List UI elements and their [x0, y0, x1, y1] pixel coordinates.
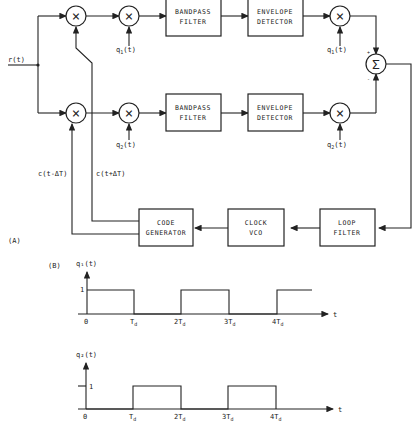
waveform-q2: q₂(t) 1 t 0 Td 2Td 3Td 4Td — [76, 351, 342, 422]
svg-text:GENERATOR: GENERATOR — [146, 229, 187, 237]
c-late-label: c(t+ΔT) — [96, 170, 126, 178]
svg-text:0: 0 — [83, 413, 87, 421]
svg-text:×: × — [72, 8, 80, 24]
multiplier-bottom-3: × — [330, 103, 350, 123]
svg-text:2Td: 2Td — [174, 413, 185, 422]
clock-vco: CLOCK VCO — [228, 209, 284, 246]
svg-text:×: × — [72, 105, 80, 121]
summer: Σ — [366, 54, 386, 74]
input-signal-label: r(t) — [8, 56, 25, 64]
q1-label-top-left: q1(t) — [116, 46, 136, 55]
part-b-label: (B) — [48, 262, 61, 270]
c-early-label: c(t-ΔT) — [38, 170, 68, 178]
multiplier-bottom-1: × — [66, 103, 86, 123]
svg-text:q₁(t): q₁(t) — [76, 260, 97, 268]
svg-text:CLOCK: CLOCK — [245, 219, 268, 227]
svg-text:×: × — [125, 105, 133, 121]
loop-filter: LOOP FILTER — [320, 209, 375, 246]
bandpass-filter-bottom: BANDPASS FILTER — [166, 94, 221, 131]
svg-text:Td: Td — [129, 413, 136, 422]
svg-text:4Td: 4Td — [272, 318, 283, 327]
svg-text:Td: Td — [130, 318, 137, 327]
bandpass-filter-top: BANDPASS FILTER — [166, 0, 221, 36]
svg-text:DETECTOR: DETECTOR — [257, 114, 293, 122]
q1-label-top-right: q1(t) — [327, 46, 347, 55]
svg-text:4Td: 4Td — [270, 413, 281, 422]
svg-text:t: t — [338, 406, 342, 414]
svg-text:×: × — [125, 8, 133, 24]
svg-text:t: t — [333, 311, 337, 319]
multiplier-top-2: × — [119, 6, 139, 26]
minus-sign: - — [367, 76, 370, 82]
svg-text:BANDPASS: BANDPASS — [175, 104, 211, 112]
svg-text:BANDPASS: BANDPASS — [175, 8, 211, 16]
svg-text:3Td: 3Td — [222, 413, 233, 422]
svg-text:VCO: VCO — [249, 229, 263, 237]
svg-text:ENVELOPE: ENVELOPE — [257, 104, 293, 112]
q2-label-bottom-left: q2(t) — [116, 141, 136, 150]
svg-text:FILTER: FILTER — [179, 114, 206, 122]
envelope-detector-top: ENVELOPE DETECTOR — [248, 0, 303, 36]
multiplier-top-1: × — [66, 6, 86, 26]
multiplier-bottom-2: × — [119, 103, 139, 123]
svg-text:Σ: Σ — [372, 57, 380, 72]
svg-text:q₂(t): q₂(t) — [76, 351, 97, 359]
svg-text:CODE: CODE — [157, 219, 175, 227]
code-generator: CODE GENERATOR — [139, 209, 193, 246]
plus-sign: + — [367, 49, 370, 55]
waveform-q1: (B) q₁(t) 1 t 0 Td 2Td 3Td 4Td — [48, 260, 337, 327]
envelope-detector-bottom: ENVELOPE DETECTOR — [248, 94, 303, 131]
svg-text:0: 0 — [84, 318, 88, 326]
q2-label-bottom-right: q2(t) — [327, 141, 347, 150]
svg-text:1: 1 — [89, 383, 93, 391]
multiplier-top-3: × — [330, 6, 350, 26]
svg-text:×: × — [336, 8, 344, 24]
part-a-label: (A) — [8, 237, 21, 245]
svg-text:2Td: 2Td — [174, 318, 185, 327]
svg-text:FILTER: FILTER — [179, 18, 206, 26]
svg-text:FILTER: FILTER — [333, 229, 360, 237]
svg-text:3Td: 3Td — [224, 318, 235, 327]
svg-text:ENVELOPE: ENVELOPE — [257, 8, 293, 16]
svg-text:×: × — [336, 105, 344, 121]
dll-block-diagram: r(t) × × q1(t) BANDPASS FILTER ENVELOPE … — [0, 0, 418, 422]
svg-text:1: 1 — [80, 286, 84, 294]
svg-text:DETECTOR: DETECTOR — [257, 18, 293, 26]
svg-text:LOOP: LOOP — [338, 219, 356, 227]
